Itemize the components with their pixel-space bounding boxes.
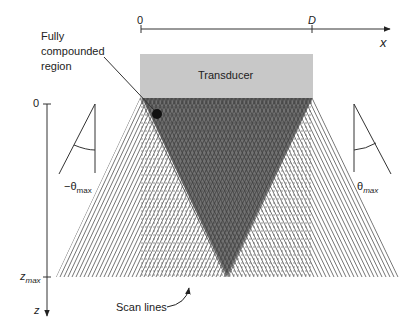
compounded-region-label: Fully compounded region bbox=[41, 29, 105, 74]
z-max-label: zmax bbox=[20, 270, 41, 284]
x-axis-d-label: D bbox=[308, 14, 316, 27]
region-pointer-dot bbox=[152, 109, 162, 119]
x-axis-label: x bbox=[380, 36, 387, 49]
neg-theta-max-label: −θmax bbox=[64, 180, 92, 194]
theta-max-glyph bbox=[354, 104, 391, 174]
x-axis bbox=[141, 25, 390, 33]
z-axis-origin-label: 0 bbox=[33, 97, 39, 110]
z-axis-label: z bbox=[34, 304, 40, 317]
theta-max-label: θmax bbox=[357, 180, 378, 194]
scan-lines-label: Scan lines bbox=[116, 301, 167, 314]
transducer-label: Transducer bbox=[198, 69, 253, 82]
x-axis-origin-label: 0 bbox=[137, 14, 143, 27]
z-axis bbox=[43, 104, 51, 316]
compounded-region bbox=[142, 98, 312, 277]
diagram-canvas: 0 D x 0 zmax z Transducer Fully compound… bbox=[0, 0, 411, 334]
neg-theta-max-glyph bbox=[59, 104, 95, 174]
scan-lines-arrow bbox=[167, 288, 189, 307]
